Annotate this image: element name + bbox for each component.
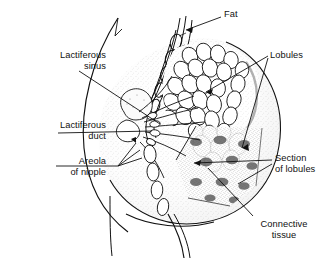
label-lobules: Lobules [270,50,330,61]
label-areola-of-nipple: Areola of nipple [6,156,106,177]
torso-contour-lower-left [110,196,112,256]
label-connective-tissue: Connective tissue [238,219,330,240]
label-lactiferous-duct: Lactiferous duct [6,120,106,141]
breast-anatomy-figure: Lactiferous sinus Lactiferous duct Areol… [0,0,336,258]
label-section-of-lobules: Section of lobules [275,153,335,174]
label-fat: Fat [224,9,264,20]
label-lactiferous-sinus: Lactiferous sinus [10,50,106,71]
